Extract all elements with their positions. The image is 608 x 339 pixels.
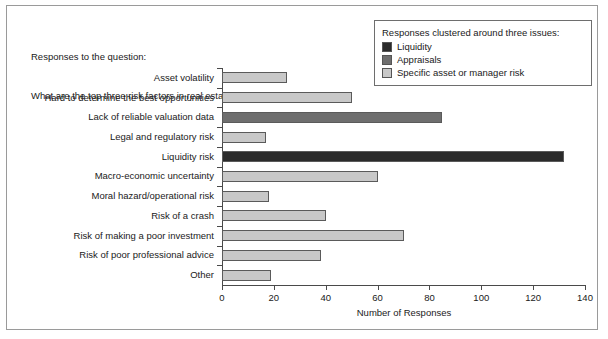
bar-row: Lack of reliable valuation data <box>222 107 585 127</box>
y-axis-tick <box>217 186 222 187</box>
bar <box>222 132 266 143</box>
x-axis-tick <box>481 285 482 290</box>
y-axis-tick <box>217 107 222 108</box>
x-axis-tick-label: 20 <box>269 292 280 304</box>
bar <box>222 230 404 241</box>
y-axis-tick-label: Other <box>190 269 214 281</box>
y-axis-tick <box>217 127 222 128</box>
x-axis-tick <box>378 285 379 290</box>
bar-row: Moral hazard/operational risk <box>222 186 585 206</box>
bar-row: Risk of making a poor investment <box>222 226 585 246</box>
bar <box>222 270 271 281</box>
bar-row: Macro-economic uncertainty <box>222 167 585 187</box>
legend-item: Appraisals <box>382 53 583 66</box>
y-axis-tick <box>217 68 222 69</box>
bar <box>222 171 378 182</box>
y-axis-tick <box>217 226 222 227</box>
x-axis-tick <box>429 285 430 290</box>
x-axis-title: Number of Responses <box>222 307 586 318</box>
y-axis-tick-label: Legal and regulatory risk <box>110 131 214 143</box>
x-axis-tick <box>585 285 586 290</box>
y-axis-tick-label: Lack of reliable valuation data <box>88 111 214 123</box>
bar <box>222 72 287 83</box>
bar-row: Legal and regulatory risk <box>222 127 585 147</box>
y-axis-tick <box>217 206 222 207</box>
chart-figure: Responses to the question: What are the … <box>6 5 598 330</box>
legend-swatch-icon <box>382 42 392 52</box>
bar <box>222 210 326 221</box>
bar-row: Risk of a crash <box>222 206 585 226</box>
legend-swatch-icon <box>382 55 392 65</box>
bar <box>222 92 352 103</box>
x-axis-tick-label: 140 <box>577 292 593 304</box>
bar-row: Asset volatility <box>222 68 585 88</box>
bar-row: Hard to determine the best opportunities <box>222 88 585 108</box>
bar <box>222 151 564 162</box>
y-axis-tick-label: Hard to determine the best opportunities <box>44 92 214 104</box>
bar <box>222 112 442 123</box>
x-axis-tick-label: 120 <box>525 292 541 304</box>
bar-row: Liquidity risk <box>222 147 585 167</box>
y-axis-tick-label: Risk of making a poor investment <box>74 230 214 242</box>
x-axis-tick-label: 100 <box>473 292 489 304</box>
y-axis-tick <box>217 265 222 266</box>
y-axis-tick-label: Asset volatility <box>154 72 214 84</box>
question-line-1: Responses to the question: <box>31 50 285 63</box>
y-axis-tick-label: Risk of poor professional advice <box>79 249 214 261</box>
y-axis-tick-label: Risk of a crash <box>151 210 214 222</box>
y-axis-tick-label: Moral hazard/operational risk <box>91 190 214 202</box>
x-axis-tick <box>222 285 223 290</box>
y-axis-tick <box>217 88 222 89</box>
bar <box>222 250 321 261</box>
legend-item-label: Appraisals <box>397 53 441 66</box>
x-axis-tick <box>274 285 275 290</box>
y-axis-tick-label: Liquidity risk <box>162 151 214 163</box>
bar <box>222 191 269 202</box>
x-axis-line <box>222 285 586 286</box>
plot-area: Asset volatilityHard to determine the be… <box>222 68 585 285</box>
x-axis-tick-label: 60 <box>372 292 383 304</box>
x-axis-tick-label: 40 <box>320 292 331 304</box>
x-axis-tick <box>533 285 534 290</box>
x-axis-tick <box>326 285 327 290</box>
x-axis-tick-label: 0 <box>219 292 224 304</box>
y-axis-tick <box>217 147 222 148</box>
legend-title: Responses clustered around three issues: <box>382 26 583 39</box>
legend-item: Liquidity <box>382 40 583 53</box>
y-axis-tick <box>217 246 222 247</box>
bar-row: Risk of poor professional advice <box>222 246 585 266</box>
bar-row: Other <box>222 265 585 285</box>
y-axis-tick <box>217 167 222 168</box>
legend-item-label: Liquidity <box>397 40 432 53</box>
y-axis-tick-label: Macro-economic uncertainty <box>95 170 214 182</box>
x-axis-tick-label: 80 <box>424 292 435 304</box>
